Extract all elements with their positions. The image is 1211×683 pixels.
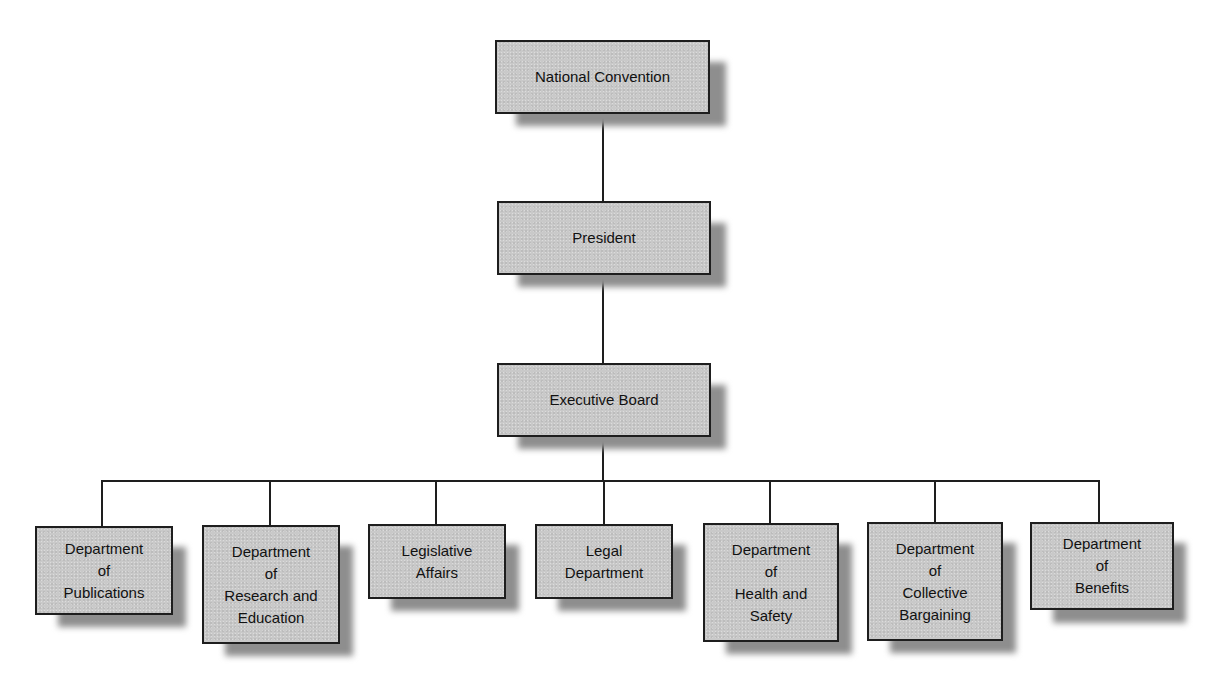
node-national-convention: National Convention — [495, 40, 710, 114]
node-label: Department of Health and Safety — [728, 539, 814, 627]
connector-dept-research-education — [269, 480, 271, 525]
node-dept-publications: Department of Publications — [35, 526, 173, 615]
node-dept-health-safety: Department of Health and Safety — [703, 523, 839, 642]
node-dept-research-education: Department of Research and Education — [202, 525, 340, 644]
node-label: Department of Collective Bargaining — [892, 538, 978, 626]
node-executive-board: Executive Board — [497, 363, 711, 437]
connector-dept-legal — [603, 480, 605, 524]
connector-dept-collective-bargaining — [934, 480, 936, 522]
node-label: Executive Board — [545, 389, 662, 411]
connector-convention-president — [602, 113, 604, 201]
node-dept-legal: Legal Department — [535, 524, 673, 599]
connector-dept-health-safety — [769, 480, 771, 523]
org-chart: National Convention President Executive … — [0, 0, 1211, 683]
node-label: Department of Research and Education — [220, 541, 321, 629]
node-president: President — [497, 201, 711, 275]
node-label: Department of Publications — [60, 538, 149, 604]
node-label: Department of Benefits — [1059, 533, 1145, 599]
connector-president-board — [602, 274, 604, 363]
node-dept-benefits: Department of Benefits — [1030, 522, 1174, 610]
node-label: Legal Department — [561, 540, 647, 584]
node-label: Legislative Affairs — [398, 540, 477, 584]
node-label: National Convention — [531, 66, 674, 88]
connector-dept-benefits — [1098, 480, 1100, 522]
node-dept-collective-bargaining: Department of Collective Bargaining — [867, 522, 1003, 641]
node-label: President — [568, 227, 639, 249]
connector-department-bus — [101, 480, 1100, 482]
connector-dept-legislative-affairs — [435, 480, 437, 524]
connector-dept-publications — [101, 480, 103, 526]
node-dept-legislative-affairs: Legislative Affairs — [368, 524, 506, 599]
